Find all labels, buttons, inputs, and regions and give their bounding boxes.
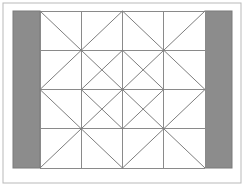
quilt-pattern-svg [0, 0, 244, 186]
left-gray-band [13, 11, 40, 168]
right-gray-band [205, 11, 232, 168]
figure-container: Geometric quilt block pattern A four-by-… [0, 0, 244, 186]
